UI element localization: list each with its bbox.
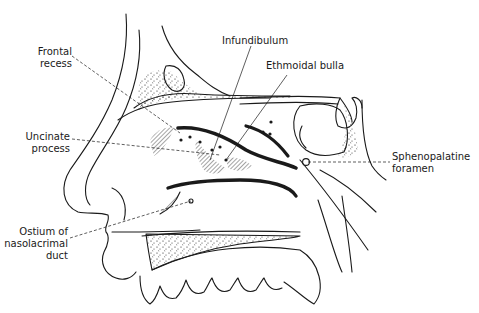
pharynx-wall-2 xyxy=(342,196,352,272)
label-uncinate-process: Uncinate process xyxy=(22,131,70,155)
pterygoid-line-1 xyxy=(300,160,368,250)
hard-palate-bone xyxy=(146,234,300,270)
leader-infundibulum xyxy=(210,46,251,160)
label-line: nasolacrimal xyxy=(4,238,68,250)
label-ethmoidal-bulla: Ethmoidal bulla xyxy=(266,60,344,72)
label-frontal-recess: Frontal recess xyxy=(32,46,72,70)
uncinate-hatching xyxy=(150,128,252,174)
label-line: Sphenopalatine xyxy=(392,151,470,163)
label-line: Frontal xyxy=(32,46,72,58)
label-line: Uncinate xyxy=(22,131,70,143)
nasal-floor xyxy=(112,230,200,232)
label-infundibulum: Infundibulum xyxy=(222,35,288,47)
label-line: Ethmoidal bulla xyxy=(266,60,344,72)
label-line: process xyxy=(22,143,70,155)
nose-outer-profile xyxy=(64,14,136,279)
label-line: Ostium of xyxy=(4,226,68,238)
clivus-line-1 xyxy=(320,170,376,212)
nasal-bone-inner xyxy=(86,30,140,205)
label-line: foramen xyxy=(392,163,470,175)
inferior-turbinate xyxy=(168,180,296,196)
label-sphenopalatine-foramen: Sphenopalatine foramen xyxy=(392,151,470,175)
pharynx-wall-1 xyxy=(318,200,342,272)
cribriform-plate-upper xyxy=(240,97,352,123)
label-ostium-nasolacrimal-duct: Ostium of nasolacrimal duct xyxy=(4,226,68,262)
nasal-ala xyxy=(112,188,125,220)
label-line: Infundibulum xyxy=(222,35,288,47)
sphenoid-sinus-chamber xyxy=(294,104,348,156)
label-line: duct xyxy=(4,250,68,262)
label-line: recess xyxy=(32,58,72,70)
sphenoid-body-posterior xyxy=(362,100,386,180)
leader-ethmoidal-bulla xyxy=(226,75,287,160)
nasolacrimal-fold xyxy=(160,192,180,214)
upper-teeth xyxy=(140,276,282,304)
